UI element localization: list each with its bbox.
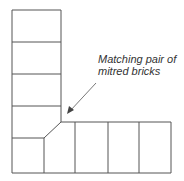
- vertical-column-outline: [12, 10, 61, 173]
- annotation-line-2: mitred bricks: [98, 65, 176, 77]
- annotation-label: Matching pair of mitred bricks: [98, 53, 176, 77]
- mitre-joint: [44, 122, 61, 138]
- annotation-line-1: Matching pair of: [98, 53, 176, 65]
- brick-corner-diagram: Matching pair of mitred bricks: [0, 0, 184, 181]
- diagram-drawing: [0, 0, 184, 181]
- pointer-arrow: [67, 83, 96, 114]
- horizontal-row-outline: [12, 122, 171, 173]
